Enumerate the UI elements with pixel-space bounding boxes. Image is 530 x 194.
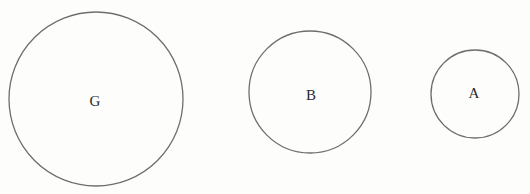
circle-group-b: B: [249, 31, 371, 153]
diagram-svg: G B A: [0, 0, 530, 194]
circles-diagram: G B A: [0, 0, 530, 194]
circle-b-label: B: [306, 87, 316, 103]
circle-group-a: A: [431, 50, 519, 138]
circle-group-g: G: [9, 12, 183, 186]
circle-a-label: A: [469, 85, 480, 101]
circle-g-label: G: [90, 93, 101, 109]
